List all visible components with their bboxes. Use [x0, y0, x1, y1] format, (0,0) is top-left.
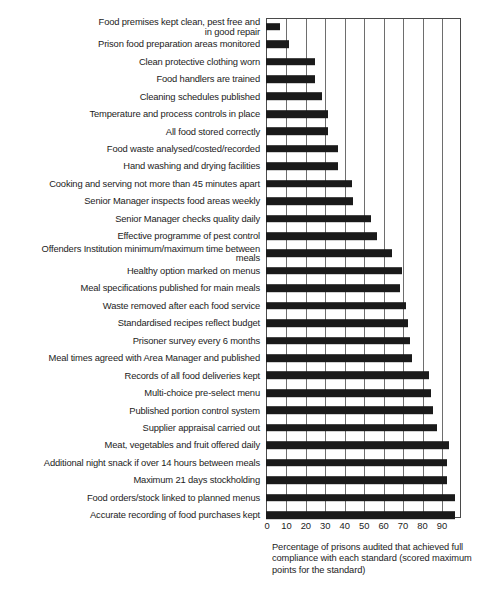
bar-row: Maximum 21 days stockholding — [0, 471, 501, 488]
bar — [266, 267, 402, 275]
bar-track — [266, 70, 461, 87]
bar — [266, 110, 328, 118]
bar — [266, 459, 447, 467]
bar-track — [266, 349, 461, 366]
bar — [266, 23, 280, 31]
bar-category-label: Hand washing and drying facilities — [0, 161, 266, 171]
bar — [266, 284, 400, 292]
bar-category-label: Cleaning schedules published — [0, 92, 266, 102]
bar — [266, 302, 406, 310]
bar-track — [266, 158, 461, 175]
bar-category-label: Food orders/stock linked to planned menu… — [0, 493, 266, 503]
bar-category-label: Offenders Institution minimum/maximum ti… — [0, 244, 266, 263]
bar — [266, 58, 315, 66]
bar-row: Additional night snack if over 14 hours … — [0, 454, 501, 471]
bar-row: Standardised recipes reflect budget — [0, 314, 501, 331]
bar — [266, 424, 437, 432]
bar-track — [266, 314, 461, 331]
bar-row: All food stored correctly — [0, 123, 501, 140]
bar-category-label: Supplier appraisal carried out — [0, 423, 266, 433]
bar-row: Temperature and process controls in plac… — [0, 105, 501, 122]
bar-track — [266, 454, 461, 471]
bar-track — [266, 245, 461, 262]
bar — [266, 180, 352, 188]
bar-rows-container: Food premises kept clean, pest free and … — [0, 18, 501, 524]
bar-track — [266, 140, 461, 157]
bar-row: Meal times agreed with Area Manager and … — [0, 349, 501, 366]
bar-track — [266, 262, 461, 279]
bar-track — [266, 402, 461, 419]
bar-category-label: Records of all food deliveries kept — [0, 371, 266, 381]
bar-category-label: Cooking and serving not more than 45 min… — [0, 179, 266, 189]
bar — [266, 250, 392, 258]
bar-category-label: Prison food preparation areas monitored — [0, 39, 266, 49]
bar — [266, 494, 455, 502]
bar-category-label: Standardised recipes reflect budget — [0, 318, 266, 328]
bar-row: Hand washing and drying facilities — [0, 158, 501, 175]
bar-row: Senior Manager inspects food areas weekl… — [0, 192, 501, 209]
bar-row: Food premises kept clean, pest free and … — [0, 18, 501, 35]
bar-category-label: Food premises kept clean, pest free and … — [0, 17, 266, 36]
x-tick-label: 40 — [340, 520, 350, 531]
bar-track — [266, 123, 461, 140]
bar — [266, 162, 338, 170]
bar — [266, 441, 449, 449]
bar — [266, 511, 455, 519]
bar-chart-figure: Food premises kept clean, pest free and … — [0, 0, 501, 593]
bar-row: Records of all food deliveries kept — [0, 367, 501, 384]
bar-track — [266, 471, 461, 488]
bar-category-label: Food handlers are trained — [0, 74, 266, 84]
bar — [266, 476, 447, 484]
bar-track — [266, 384, 461, 401]
bar-track — [266, 35, 461, 52]
bar-row: Supplier appraisal carried out — [0, 419, 501, 436]
bar — [266, 319, 408, 327]
bar-row: Food handlers are trained — [0, 70, 501, 87]
x-tick-label: 20 — [301, 520, 311, 531]
bar — [266, 40, 289, 48]
bar — [266, 197, 353, 205]
x-tick-label: 70 — [398, 520, 408, 531]
bar — [266, 232, 377, 240]
bar-category-label: Multi-choice pre-select menu — [0, 388, 266, 398]
bar-track — [266, 210, 461, 227]
bar-row: Senior Manager checks quality daily — [0, 210, 501, 227]
bar-category-label: Temperature and process controls in plac… — [0, 109, 266, 119]
x-tick-label: 90 — [437, 520, 447, 531]
bar-row: Cooking and serving not more than 45 min… — [0, 175, 501, 192]
bar — [266, 337, 410, 345]
bar-category-label: Senior Manager checks quality daily — [0, 214, 266, 224]
bar-category-label: Meal specifications published for main m… — [0, 283, 266, 293]
bar — [266, 407, 433, 415]
bar — [266, 145, 338, 153]
x-tick-label: 0 — [264, 520, 269, 531]
bar — [266, 128, 328, 136]
x-axis-tick-labels: 0102030405060708090 — [266, 520, 476, 534]
bar-row: Meal specifications published for main m… — [0, 280, 501, 297]
bar-track — [266, 332, 461, 349]
bar-row: Food waste analysed/costed/recorded — [0, 140, 501, 157]
bar — [266, 354, 412, 362]
bar-row: Prison food preparation areas monitored — [0, 35, 501, 52]
bar-category-label: Accurate recording of food purchases kep… — [0, 510, 266, 520]
x-axis-caption: Percentage of prisons audited that achie… — [272, 542, 482, 576]
bar-row: Clean protective clothing worn — [0, 53, 501, 70]
bar-row: Food orders/stock linked to planned menu… — [0, 489, 501, 506]
bar-category-label: Additional night snack if over 14 hours … — [0, 458, 266, 468]
x-tick-label: 10 — [281, 520, 291, 531]
bar-row: Meat, vegetables and fruit offered daily — [0, 437, 501, 454]
bar-category-label: All food stored correctly — [0, 127, 266, 137]
x-tick-label: 80 — [417, 520, 427, 531]
bar-category-label: Meat, vegetables and fruit offered daily — [0, 440, 266, 450]
bar — [266, 93, 322, 101]
bar-category-label: Senior Manager inspects food areas weekl… — [0, 196, 266, 206]
bar-row: Offenders Institution minimum/maximum ti… — [0, 245, 501, 262]
bar-track — [266, 175, 461, 192]
bar-category-label: Effective programme of pest control — [0, 231, 266, 241]
bar-row: Published portion control system — [0, 402, 501, 419]
bar-category-label: Clean protective clothing worn — [0, 57, 266, 67]
bar-track — [266, 18, 461, 35]
bar-category-label: Published portion control system — [0, 406, 266, 416]
bar-track — [266, 53, 461, 70]
bar-row: Multi-choice pre-select menu — [0, 384, 501, 401]
